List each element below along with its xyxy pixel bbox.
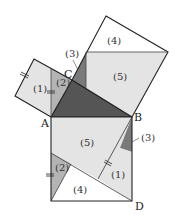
label-hyp-3: (3) — [141, 132, 155, 143]
label-big-5: (5) — [113, 71, 127, 82]
leader-line-3-top — [73, 60, 78, 70]
label-hyp-2: (2) — [55, 162, 69, 173]
vertex-d-label: D — [135, 200, 144, 213]
vertex-c-label: C — [64, 68, 72, 81]
pythagorean-diagram: (1) (2) (3) (4) (5) (5) (3) (1) (2) (4) … — [0, 0, 183, 219]
vertex-a-label: A — [40, 117, 50, 130]
leader-line-3-right — [132, 138, 139, 142]
label-hyp-1: (1) — [111, 169, 125, 180]
vertex-b-label: B — [134, 111, 142, 124]
label-hyp-5: (5) — [80, 137, 94, 148]
label-small-1: (1) — [33, 83, 47, 94]
label-hyp-4: (4) — [73, 184, 87, 195]
label-big-3: (3) — [65, 48, 79, 59]
label-big-4: (4) — [107, 35, 121, 46]
big-square-piece-4 — [86, 16, 168, 52]
